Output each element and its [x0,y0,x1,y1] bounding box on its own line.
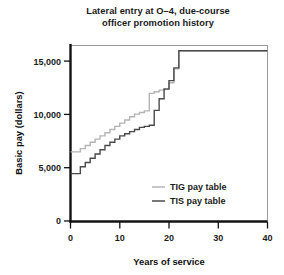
y-tick-label-15000: 15,000 [33,57,61,67]
x-tick-label-20: 20 [164,233,174,243]
legend-label-tig: TIG pay table [170,182,227,192]
chart-plot: 0 5,000 10,000 15,000 0 10 20 30 40 Year… [0,0,284,275]
y-tick-label-0: 0 [56,216,61,226]
y-axis-title: Basic pay (dollars) [13,91,24,174]
x-tick-label-40: 40 [262,233,272,243]
chart-figure: Lateral entry at O–4, due-course officer… [0,0,284,275]
y-axis-tick-labels: 0 5,000 10,000 15,000 [33,57,61,227]
plot-frame [71,46,268,222]
x-tick-label-10: 10 [115,233,125,243]
y-tick-label-10000: 10,000 [33,110,61,120]
x-axis-title: Years of service [133,256,204,267]
x-axis-tick-labels: 0 10 20 30 40 [68,233,273,243]
y-tick-label-5000: 5,000 [38,163,61,173]
x-axis-ticks [71,222,268,229]
x-tick-label-30: 30 [213,233,223,243]
legend-label-tis: TIS pay table [170,196,226,206]
x-tick-label-0: 0 [68,233,73,243]
